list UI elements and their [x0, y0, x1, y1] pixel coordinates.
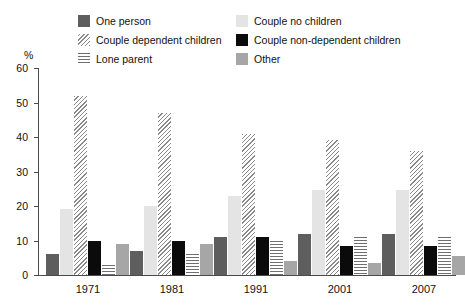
y-axis-tick-label: 30: [16, 166, 28, 177]
legend-item-couple-no[interactable]: Couple no children: [236, 12, 401, 30]
y-axis-line: [38, 68, 39, 276]
legend-swatch-one-person-icon: [78, 15, 90, 27]
y-axis-tick: 10: [34, 241, 38, 242]
bar-couple-dep-1971[interactable]: [74, 96, 87, 275]
y-axis-tick: 30: [34, 172, 38, 173]
y-axis-tick: 40: [34, 137, 38, 138]
y-axis-tick-label: 0: [22, 270, 28, 281]
legend-label: Couple no children: [254, 15, 342, 27]
bar-group-bars: [130, 68, 213, 275]
bar-other-1981[interactable]: [200, 244, 213, 275]
bar-group-bars: [298, 68, 381, 275]
bar-other-1991[interactable]: [284, 261, 297, 275]
bar-couple-nondep-1971[interactable]: [88, 241, 101, 276]
bar-group-1981: 1981: [130, 68, 214, 275]
bar-one-person-2001[interactable]: [298, 234, 311, 275]
legend-column-right: Couple no childrenCouple non-dependent c…: [236, 12, 401, 69]
x-axis-label-1971: 1971: [46, 283, 130, 295]
bar-group-bars: [382, 68, 465, 275]
bar-group-bars: [46, 68, 129, 275]
x-axis-label-2001: 2001: [298, 283, 382, 295]
bar-couple-no-2001[interactable]: [312, 190, 325, 275]
chart-figure: One personCouple dependent childrenLone …: [0, 0, 465, 308]
legend-label: Couple dependent children: [96, 34, 222, 46]
bar-other-1971[interactable]: [116, 244, 129, 275]
bar-couple-nondep-2001[interactable]: [340, 246, 353, 275]
legend-item-lone-parent[interactable]: Lone parent: [78, 50, 222, 68]
legend-label: Other: [254, 53, 280, 65]
y-axis-tick: 50: [34, 103, 38, 104]
y-axis-tick: 0: [34, 275, 38, 276]
bar-couple-no-1981[interactable]: [144, 206, 157, 275]
bar-couple-dep-1991[interactable]: [242, 134, 255, 275]
bar-lone-parent-1971[interactable]: [102, 265, 115, 275]
bar-lone-parent-2007[interactable]: [438, 237, 451, 275]
bar-group-bars: [214, 68, 297, 275]
legend-label: Lone parent: [96, 53, 152, 65]
bar-couple-dep-1981[interactable]: [158, 113, 171, 275]
chart-legend: One personCouple dependent childrenLone …: [78, 12, 408, 68]
y-axis-tick-label: 50: [16, 97, 28, 108]
bar-couple-dep-2007[interactable]: [410, 151, 423, 275]
bar-other-2007[interactable]: [452, 256, 465, 275]
legend-item-couple-nondep[interactable]: Couple non-dependent children: [236, 31, 401, 49]
legend-swatch-other-icon: [236, 53, 248, 65]
bar-lone-parent-1981[interactable]: [186, 254, 199, 275]
y-axis-tick-label: 60: [16, 63, 28, 74]
bar-lone-parent-1991[interactable]: [270, 241, 283, 276]
bar-couple-no-2007[interactable]: [396, 190, 409, 275]
y-axis-tick-label: 20: [16, 201, 28, 212]
bar-group-1991: 1991: [214, 68, 298, 275]
bar-couple-nondep-1991[interactable]: [256, 237, 269, 275]
legend-swatch-couple-no-icon: [236, 15, 248, 27]
bar-couple-nondep-2007[interactable]: [424, 246, 437, 275]
legend-item-one-person[interactable]: One person: [78, 12, 222, 30]
bar-other-2001[interactable]: [368, 263, 381, 275]
legend-swatch-couple-nondep-icon: [236, 34, 248, 46]
bar-lone-parent-2001[interactable]: [354, 237, 367, 275]
x-axis-label-1991: 1991: [214, 283, 298, 295]
bar-group-2001: 2001: [298, 68, 382, 275]
bar-one-person-1971[interactable]: [46, 254, 59, 275]
legend-column-left: One personCouple dependent childrenLone …: [78, 12, 222, 69]
x-axis-line: [38, 275, 456, 276]
bar-one-person-2007[interactable]: [382, 234, 395, 275]
bar-couple-no-1971[interactable]: [60, 209, 73, 275]
y-axis-tick: 20: [34, 206, 38, 207]
legend-swatch-lone-parent-icon: [78, 53, 90, 65]
bar-couple-no-1991[interactable]: [228, 196, 241, 275]
legend-item-other[interactable]: Other: [236, 50, 401, 68]
bar-group-2007: 2007: [382, 68, 465, 275]
y-axis-tick-label: 10: [16, 235, 28, 246]
bar-couple-dep-2001[interactable]: [326, 140, 339, 275]
bar-couple-nondep-1981[interactable]: [172, 241, 185, 276]
y-axis-tick-label: 40: [16, 132, 28, 143]
legend-label: One person: [96, 15, 151, 27]
x-axis-label-1981: 1981: [130, 283, 214, 295]
bar-group-1971: 1971: [46, 68, 130, 275]
bar-one-person-1981[interactable]: [130, 251, 143, 275]
plot-area: 0102030405060 19711981199120012007: [38, 68, 456, 276]
y-axis-title: %: [24, 49, 33, 61]
legend-label: Couple non-dependent children: [254, 34, 401, 46]
x-axis-label-2007: 2007: [382, 283, 465, 295]
legend-swatch-couple-dep-icon: [78, 34, 90, 46]
legend-item-couple-dep[interactable]: Couple dependent children: [78, 31, 222, 49]
y-axis-tick: 60: [34, 68, 38, 69]
bar-one-person-1991[interactable]: [214, 237, 227, 275]
